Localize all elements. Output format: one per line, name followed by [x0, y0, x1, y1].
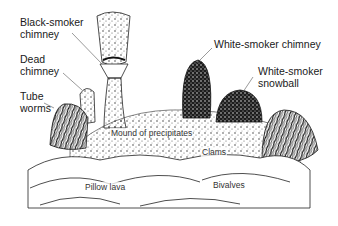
- label-clams: Clams: [201, 147, 227, 157]
- label-dead-chimney: Dead chimney: [20, 53, 59, 77]
- label-black-smoker-chimney: Black-smoker chimney: [20, 16, 84, 40]
- label-mound-of-precipitates: Mound of precipitates: [110, 128, 193, 138]
- label-bivalves: Bivalves: [212, 180, 246, 190]
- tube-worms-right: [262, 110, 318, 162]
- label-white-smoker-snowball: White-smoker snowball: [258, 65, 323, 89]
- white-smoker-chimney: [183, 60, 211, 118]
- white-smoker-snowball: [216, 90, 262, 122]
- black-smoker-chimney: [97, 12, 130, 128]
- label-pillow-lava: Pillow lava: [84, 182, 126, 192]
- tube-worms: [50, 104, 88, 150]
- label-white-smoker-chimney: White-smoker chimney: [214, 38, 321, 50]
- label-tube-worms: Tube worms: [20, 90, 51, 114]
- pillow-lava: [28, 154, 310, 208]
